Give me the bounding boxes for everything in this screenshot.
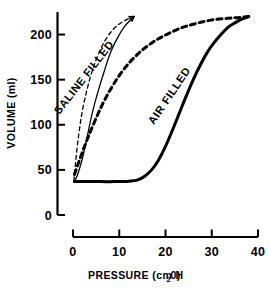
y-tick-label: 50 [37, 163, 52, 177]
y-tick-label: 100 [30, 118, 52, 132]
x-axis-tick-labels: 010203040 [69, 245, 265, 259]
x-axis-ticks [73, 230, 258, 238]
x-tick-label: 0 [69, 245, 76, 259]
x-tick-label: 20 [158, 245, 173, 259]
y-axis-tick-labels: 050100150200 [30, 28, 52, 222]
y-tick-label: 0 [45, 209, 52, 223]
x-tick-label: 40 [251, 245, 266, 259]
curve-label: SALINE FILLED [51, 38, 116, 116]
y-axis-title: VOLUME (ml) [5, 77, 17, 148]
x-tick-label: 30 [204, 245, 219, 259]
curve-annotations: SALINE FILLEDAIR FILLED [51, 38, 192, 126]
y-tick-label: 200 [30, 28, 52, 42]
y-axis-ticks [58, 35, 66, 215]
x-axis-title-tail: 0) [171, 269, 181, 281]
x-tick-label: 10 [112, 245, 127, 259]
figure-container: 050100150200 010203040 SALINE FILLEDAIR … [0, 0, 276, 290]
y-tick-label: 150 [30, 73, 52, 87]
pressure-volume-chart: 050100150200 010203040 SALINE FILLEDAIR … [0, 0, 276, 290]
x-axis-title: PRESSURE (cm H 2 0) [88, 269, 183, 284]
